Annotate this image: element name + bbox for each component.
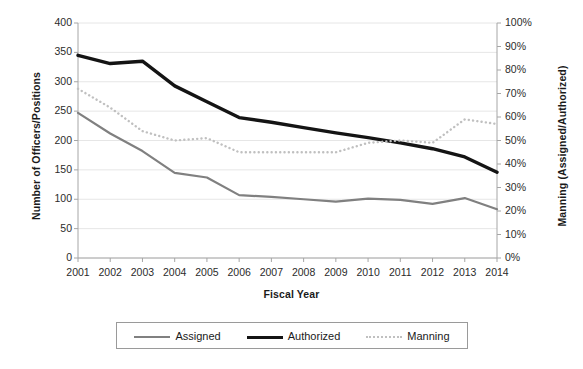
y-axis-right-tick-label: 80% [505,63,549,75]
y-axis-left-tick-label: 200 [30,134,72,146]
legend-line-assigned-icon [134,331,170,341]
y-axis-right-tick-label: 90% [505,40,549,52]
series-line-authorized [78,55,497,172]
y-axis-right-tick-label: 100% [505,16,549,28]
series-line-manning [78,89,497,152]
y-axis-right-tick-label: 50% [505,134,549,146]
x-axis-tick-label: 2014 [477,266,517,278]
chart-plot-area [0,0,583,369]
legend-item-manning: Manning [366,330,449,342]
y-axis-left-tick-label: 50 [30,222,72,234]
legend-item-assigned: Assigned [134,330,220,342]
y-axis-left-tick-label: 350 [30,45,72,57]
y-axis-left-tick-label: 400 [30,16,72,28]
legend-line-manning-icon [366,331,402,341]
chart-legend: Assigned Authorized Manning [116,322,468,349]
legend-item-authorized: Authorized [247,330,341,342]
y-axis-right-tick-label: 20% [505,204,549,216]
y-axis-right-tick-label: 40% [505,157,549,169]
y-axis-right-tick-label: 30% [505,181,549,193]
y-axis-left-tick-label: 300 [30,75,72,87]
y-axis-left-tick-label: 0 [30,251,72,263]
y-axis-right-tick-label: 10% [505,228,549,240]
legend-label-assigned: Assigned [175,330,220,342]
y-axis-left-tick-label: 150 [30,163,72,175]
gridlines [78,23,497,258]
y-axis-right-tick-label: 70% [505,87,549,99]
legend-label-authorized: Authorized [288,330,341,342]
y-axis-left-tick-label: 250 [30,104,72,116]
legend-label-manning: Manning [407,330,449,342]
y-axis-right-title: Manning (Assigned/Authorized) [556,21,568,271]
y-axis-right-tick-label: 60% [505,110,549,122]
series-line-assigned [78,113,497,209]
chart-container: Number of Officers/Positions Manning (As… [0,0,583,369]
x-axis-title: Fiscal Year [0,288,583,300]
legend-line-authorized-icon [247,331,283,341]
y-axis-right-tick-label: 0% [505,251,549,263]
y-axis-left-tick-label: 100 [30,192,72,204]
